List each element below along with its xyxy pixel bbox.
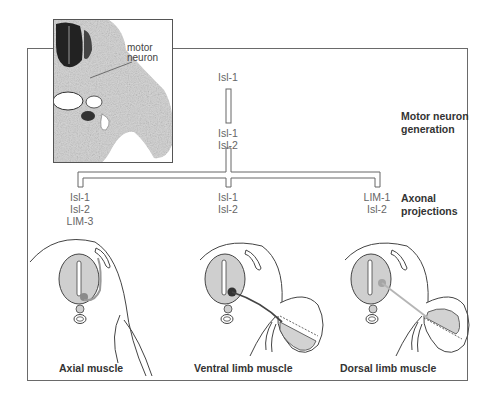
stem-segment-upper	[226, 89, 231, 123]
progenitor-gene-isl1: Isl-1	[208, 71, 248, 84]
branch-bracket	[78, 148, 380, 187]
stage-label-generation-line1: Motor neuron	[401, 110, 469, 123]
motor-neuron-gene-isl2: Isl-2	[208, 139, 248, 152]
stage-label-axonal-line2: projections	[401, 205, 458, 218]
dorsal-gene-isl2: Isl-2	[357, 203, 397, 216]
ventral-gene-isl2: Isl-2	[208, 203, 248, 216]
stage-label-generation-line2: generation	[401, 123, 455, 136]
section-axial	[30, 240, 152, 377]
section-dorsal	[345, 243, 469, 356]
axial-gene-lim3: LIM-3	[60, 215, 100, 228]
caption-ventral-limb-muscle: Ventral limb muscle	[194, 362, 293, 374]
caption-dorsal-limb-muscle: Dorsal limb muscle	[340, 362, 436, 374]
section-ventral	[200, 243, 323, 356]
stage-label-axonal-line1: Axonal	[401, 192, 436, 205]
caption-axial-muscle: Axial muscle	[59, 362, 123, 374]
